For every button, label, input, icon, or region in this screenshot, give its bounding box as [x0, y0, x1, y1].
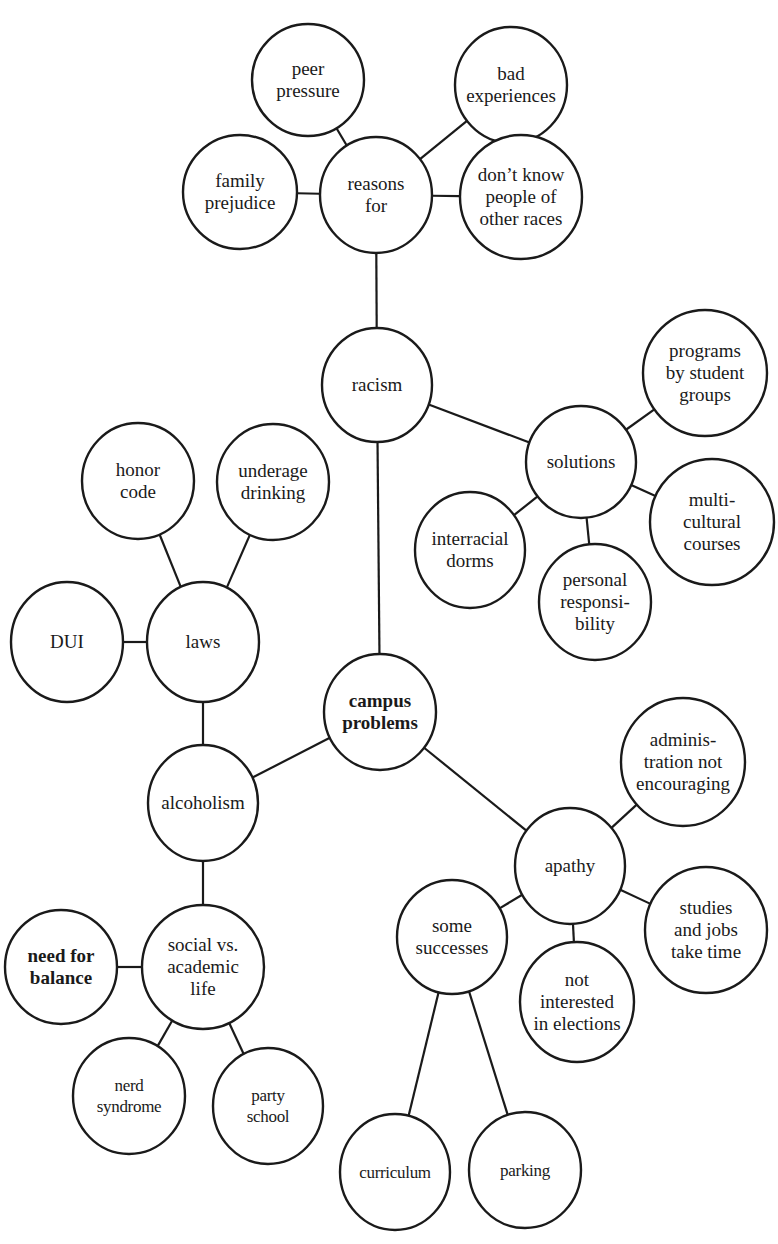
node-label-dont-know: don’t knowpeople ofother races — [478, 164, 565, 230]
edge-reasons-for-to-peer-pressure — [337, 128, 347, 145]
node-label-programs: programsby studentgroups — [666, 340, 745, 406]
node-label-line: personal — [563, 569, 627, 591]
edge-apathy-to-studies-jobs — [620, 890, 650, 904]
node-label-line: social vs. — [168, 934, 239, 956]
cluster-diagram: peerpressurebadexperiencesfamilyprejudic… — [0, 0, 778, 1244]
edge-some-successes-to-parking — [469, 991, 508, 1115]
node-label-line: alcoholism — [161, 792, 244, 814]
node-label-need-for-balance: need forbalance — [27, 945, 94, 989]
edge-apathy-to-administration — [611, 805, 636, 828]
edge-racism-to-solutions — [429, 405, 530, 443]
node-label-line: and jobs — [674, 919, 738, 941]
node-label-line: people of — [485, 186, 556, 208]
node-label-line: racism — [352, 374, 403, 396]
node-label-laws: laws — [186, 631, 221, 653]
node-label-line: curriculum — [359, 1162, 431, 1183]
node-label-line: in elections — [533, 1013, 620, 1035]
edge-some-successes-to-curriculum — [409, 992, 439, 1116]
node-label-line: take time — [671, 941, 741, 963]
edge-apathy-to-some-successes — [500, 895, 523, 909]
node-label-line: balance — [30, 967, 92, 989]
edge-social-academic-to-party-school — [229, 1023, 243, 1054]
node-label-line: academic — [167, 956, 239, 978]
node-label-line: courses — [684, 533, 741, 555]
node-label-line: groups — [679, 384, 731, 406]
edge-social-academic-to-nerd-syndrome — [158, 1021, 173, 1047]
node-label-line: encouraging — [636, 773, 730, 795]
node-label-family-prejudice: familyprejudice — [205, 170, 276, 214]
node-label-line: parking — [500, 1160, 550, 1181]
node-label-line: solutions — [547, 451, 616, 473]
node-label-dui: DUI — [50, 631, 84, 653]
node-label-line: multi- — [689, 489, 735, 511]
node-label-line: life — [190, 978, 215, 1000]
node-label-interracial-dorms: interracialdorms — [431, 528, 508, 572]
node-label-line: code — [120, 481, 156, 503]
node-label-line: syndrome — [97, 1096, 162, 1117]
node-label-line: adminis- — [650, 729, 717, 751]
node-label-parking: parking — [500, 1160, 550, 1181]
node-label-nerd-syndrome: nerdsyndrome — [97, 1075, 162, 1117]
node-label-line: problems — [342, 712, 418, 734]
node-label-line: cultural — [683, 511, 741, 533]
node-label-apathy: apathy — [545, 855, 596, 877]
node-label-line: by student — [666, 362, 745, 384]
node-label-personal-responsibility: personalresponsi-bility — [560, 569, 630, 635]
node-label-line: prejudice — [205, 192, 276, 214]
node-label-multicultural: multi-culturalcourses — [683, 489, 741, 555]
node-label-honor-code: honorcode — [116, 459, 160, 503]
node-label-line: nerd — [114, 1075, 143, 1096]
node-label-line: laws — [186, 631, 221, 653]
node-label-line: party — [251, 1085, 284, 1106]
node-label-racism: racism — [352, 374, 403, 396]
node-label-line: interracial — [431, 528, 508, 550]
node-label-line: studies — [680, 897, 733, 919]
node-label-line: need for — [27, 945, 94, 967]
edge-reasons-for-to-bad-experiences — [420, 121, 467, 159]
edge-solutions-to-multicultural — [631, 485, 655, 496]
node-label-line: not — [565, 969, 589, 991]
node-label-line: experiences — [466, 85, 556, 107]
edge-campus-problems-to-apathy — [424, 748, 526, 831]
node-label-line: apathy — [545, 855, 596, 877]
node-label-line: reasons — [348, 173, 405, 195]
node-label-line: tration not — [644, 751, 723, 773]
node-label-administration: adminis-tration notencouraging — [636, 729, 730, 795]
edge-solutions-to-programs — [626, 409, 654, 429]
node-label-bad-experiences: badexperiences — [466, 63, 556, 107]
node-label-line: don’t know — [478, 164, 565, 186]
node-label-line: drinking — [241, 482, 305, 504]
node-label-line: school — [247, 1106, 290, 1127]
node-label-line: for — [365, 195, 387, 217]
node-label-solutions: solutions — [547, 451, 616, 473]
node-label-line: some — [432, 915, 472, 937]
node-label-line: successes — [416, 937, 489, 959]
node-label-peer-pressure: peerpressure — [276, 58, 339, 102]
node-label-campus-problems: campusproblems — [342, 690, 418, 734]
node-label-line: bad — [497, 63, 524, 85]
node-label-not-interested: notinterestedin elections — [533, 969, 620, 1035]
node-label-line: pressure — [276, 80, 339, 102]
node-label-line: DUI — [50, 631, 84, 653]
edge-solutions-to-interracial-dorms — [514, 496, 538, 515]
node-label-curriculum: curriculum — [359, 1162, 431, 1183]
node-label-party-school: partyschool — [247, 1085, 290, 1127]
edge-campus-problems-to-alcoholism — [252, 738, 329, 778]
node-label-line: other races — [480, 208, 563, 230]
edge-laws-to-honor-code — [160, 535, 181, 587]
node-label-some-successes: somesuccesses — [416, 915, 489, 959]
edge-reasons-for-to-family-prejudice — [297, 193, 320, 194]
node-label-social-academic: social vs.academiclife — [167, 934, 239, 1000]
node-label-line: campus — [349, 690, 411, 712]
edge-solutions-to-personal-responsibility — [587, 518, 590, 545]
node-label-reasons-for: reasonsfor — [348, 173, 405, 217]
node-label-line: peer — [292, 58, 325, 80]
node-label-underage-drinking: underagedrinking — [238, 460, 308, 504]
node-label-line: underage — [238, 460, 308, 482]
node-label-line: programs — [669, 340, 741, 362]
node-label-line: responsi- — [560, 591, 630, 613]
node-label-line: bility — [575, 613, 615, 635]
edge-apathy-to-not-interested — [573, 924, 574, 942]
node-label-alcoholism: alcoholism — [161, 792, 244, 814]
node-label-line: interested — [540, 991, 614, 1013]
